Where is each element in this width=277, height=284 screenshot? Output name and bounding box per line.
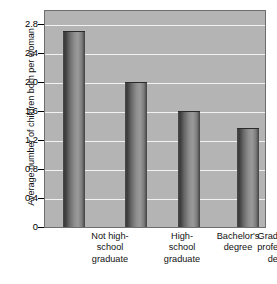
x-axis-category-labels: Not high-schoolgraduateHigh-schoolgradua…: [44, 231, 266, 283]
x-axis-category-label-line: graduate: [134, 254, 230, 265]
x-axis-category-label-line: professional: [230, 242, 277, 253]
y-axis-tick-label: 2.8: [6, 19, 38, 28]
bar: [237, 128, 259, 227]
y-axis-tick-label: 0: [6, 222, 38, 231]
bar: [125, 82, 147, 227]
bar: [178, 111, 200, 227]
plot-area: [44, 10, 266, 228]
x-axis-category-label-line: Graduate or: [230, 231, 277, 242]
y-axis-tick-label: 1.6: [6, 106, 38, 115]
y-axis-tick-label: 2.0: [6, 77, 38, 86]
y-axis-tick-label: 0.4: [6, 193, 38, 202]
y-axis-tick-label: 1.2: [6, 135, 38, 144]
bar: [63, 31, 85, 227]
x-axis-category-label: Graduate orprofessionaldegree: [230, 231, 277, 265]
bar-chart-figure: Average number of children born per woma…: [0, 0, 277, 284]
x-axis-category-label-line: degree: [230, 254, 277, 265]
y-axis-tick-label: 0.8: [6, 164, 38, 173]
gridline: [45, 25, 265, 26]
y-axis-tick-label: 2.4: [6, 48, 38, 57]
y-axis-title: Average number of children born per woma…: [26, 12, 36, 222]
